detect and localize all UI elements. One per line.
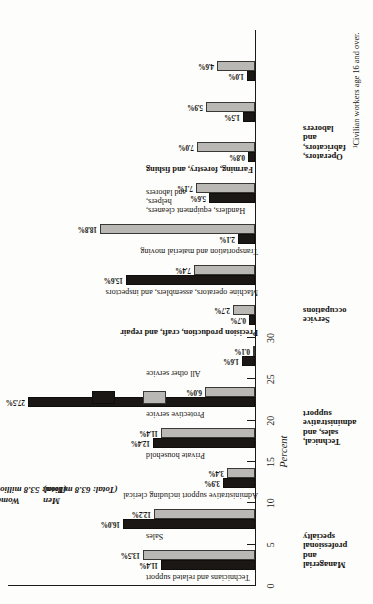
category-label: Precision production, craft, and repair <box>146 328 258 337</box>
bar-group: 12.4%11.4% <box>153 428 256 448</box>
group-name: Technical,sales, andadministrativesuppor… <box>303 409 363 447</box>
plot-area: 11.4%13.5%16.0%12.2%3.9%3.4%12.4%11.4%27… <box>8 30 256 586</box>
bar-men: 6.0% <box>205 387 255 397</box>
bar-men: 18.8% <box>100 224 255 234</box>
bar-men: 0.1% <box>253 346 255 356</box>
category-label: Handlers, equipment cleaners, helpers,an… <box>146 188 258 215</box>
group-name: Serviceoccupations <box>303 305 363 324</box>
category-label: Sales <box>146 532 258 541</box>
bar-value-label: 16.0% <box>101 520 120 529</box>
bar-value-label: 4.6% <box>198 61 214 70</box>
bar-women: 0.7% <box>249 315 255 325</box>
bar-value-label: 1.6% <box>223 357 239 366</box>
bar-men: 4.6% <box>217 61 255 71</box>
bar-group: 1.5%5.9% <box>206 102 255 122</box>
bar-men: 2.7% <box>233 305 255 315</box>
chart-figure: 11.4%13.5%16.0%12.2%3.9%3.4%12.4%11.4%27… <box>0 0 373 604</box>
bar-men: 12.2% <box>154 509 255 519</box>
bar-value-label: 0.1% <box>234 347 250 356</box>
category-label: Protective service <box>146 410 258 419</box>
bar-group: 0.7%2.7% <box>233 305 255 325</box>
bar-value-label: 1.0% <box>228 71 244 80</box>
bar-group: 11.4%13.5% <box>143 550 255 570</box>
category-label: Farming, forestry, and fishing <box>146 165 258 174</box>
bar-men: 3.4% <box>227 468 255 478</box>
bar-value-label: 3.9% <box>204 479 220 488</box>
bar-women: 27.5% <box>28 397 255 407</box>
bar-men: 5.9% <box>206 102 255 112</box>
category-label: Machine operators, assemblers, and inspe… <box>146 288 258 297</box>
group-name: Managerialandprofessionalspecialty <box>303 531 363 569</box>
bar-women: 16.0% <box>123 519 255 529</box>
bar-group: 27.5%6.0% <box>28 387 255 407</box>
bar-value-label: 15.6% <box>104 275 123 284</box>
bar-value-label: 2.1% <box>219 234 235 243</box>
bar-value-label: 12.2% <box>132 510 151 519</box>
bar-women: 3.9% <box>223 478 255 488</box>
bar-value-label: 13.5% <box>121 551 140 560</box>
bar-group: 1.0%4.6% <box>217 61 255 81</box>
value-axis-line <box>8 585 256 586</box>
bar-value-label: 2.7% <box>214 306 230 315</box>
bar-men: 13.5% <box>143 550 255 560</box>
bar-value-label: 3.4% <box>208 469 224 478</box>
bar-value-label: 11.4% <box>139 561 158 570</box>
bar-value-label: 7.0% <box>179 143 195 152</box>
category-label: All other service <box>146 369 258 378</box>
bar-value-label: 1.5% <box>224 112 240 121</box>
bar-value-label: 18.8% <box>78 224 97 233</box>
bar-value-label: 0.7% <box>231 316 247 325</box>
bar-group: 2.1%18.8% <box>100 224 255 244</box>
bar-value-label: 27.5% <box>6 397 25 406</box>
category-label: Private household <box>146 451 258 460</box>
bar-women: 12.4% <box>153 438 256 448</box>
footnote: ¹Civilian workers age 16 and over. <box>352 32 361 148</box>
bar-women: 15.6% <box>126 275 255 285</box>
bar-men: 11.4% <box>161 428 255 438</box>
bar-men: 7.0% <box>197 142 255 152</box>
category-label: Transportation and material moving <box>146 247 258 256</box>
bar-men: 7.4% <box>194 265 255 275</box>
bar-group: 16.0%12.2% <box>123 509 255 529</box>
bar-women: 1.6% <box>242 356 255 366</box>
bar-value-label: 12.4% <box>130 438 149 447</box>
bar-women: 1.5% <box>243 112 255 122</box>
bar-value-label: 0.8% <box>230 153 246 162</box>
bar-value-label: 6.0% <box>187 387 203 396</box>
bar-group: 3.9%3.4% <box>223 468 255 488</box>
bar-group: 1.6%0.1% <box>242 346 255 366</box>
bar-value-label: 7.4% <box>175 265 191 274</box>
bar-women: 0.8% <box>248 152 255 162</box>
bar-group: 15.6%7.4% <box>126 265 255 285</box>
category-label: Administrative support including clerica… <box>146 491 258 500</box>
bar-group: 0.8%7.0% <box>197 142 255 162</box>
bar-value-label: 5.9% <box>188 102 204 111</box>
bar-women: 2.1% <box>238 234 255 244</box>
bar-value-label: 11.4% <box>139 428 158 437</box>
category-label: Technicians and related support <box>146 573 258 582</box>
bar-women: 1.0% <box>247 71 255 81</box>
bar-women: 11.4% <box>161 560 255 570</box>
